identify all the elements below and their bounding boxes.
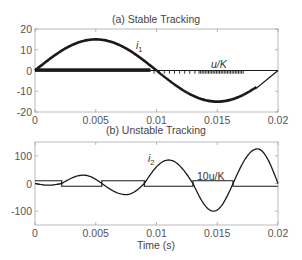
panel-b-10uk-label: 10u/K: [197, 170, 224, 182]
x-tick-label: 0: [32, 227, 38, 239]
y-tick-label: 0: [26, 65, 32, 77]
panel-b-axes-box: [35, 142, 278, 225]
x-tick-label: 0.005: [83, 114, 109, 126]
y-tick-label: 20: [20, 23, 32, 35]
x-tick-label: 0.005: [83, 227, 109, 239]
panel-a-lines: [35, 39, 278, 102]
y-tick-label: 10: [20, 44, 32, 56]
x-tick-label: 0.01: [146, 227, 167, 239]
panel-a-title: (a) Stable Tracking: [112, 13, 200, 25]
panel-a-uk-label: u/K: [211, 58, 228, 70]
panel-a-x-ticks: 00.0050.010.0150.02: [32, 29, 288, 126]
x-tick-label: 0.015: [204, 114, 230, 126]
x-axis-label-time: Time (s): [137, 239, 175, 251]
y-tick-label: -10: [17, 85, 32, 97]
x-tick-label: 0: [32, 114, 38, 126]
y-tick-label: 0: [26, 178, 32, 190]
panel-b-lines: [35, 149, 278, 211]
x-tick-label: 0.02: [268, 114, 289, 126]
panel-b-x-ticks: 00.0050.010.0150.02: [32, 142, 288, 239]
y-tick-label: -100: [11, 205, 32, 217]
y-tick-label: 100: [14, 150, 32, 162]
x-tick-label: 0.015: [204, 227, 230, 239]
x-tick-label: 0.02: [268, 227, 289, 239]
y-tick-label: -20: [17, 106, 32, 118]
panel-b-i2-label: i2: [148, 152, 155, 167]
panel-b-unstable-tracking: (b) Unstable Tracking 1000-100 00.0050.0…: [11, 124, 288, 251]
panel-a-stable-tracking: (a) Stable Tracking 20100-10-20 00.0050.…: [17, 13, 289, 126]
panel-b-title: (b) Unstable Tracking: [106, 124, 206, 136]
figure: (a) Stable Tracking 20100-10-20 00.0050.…: [0, 0, 302, 260]
panel-a-i1-label: i1: [136, 39, 143, 54]
